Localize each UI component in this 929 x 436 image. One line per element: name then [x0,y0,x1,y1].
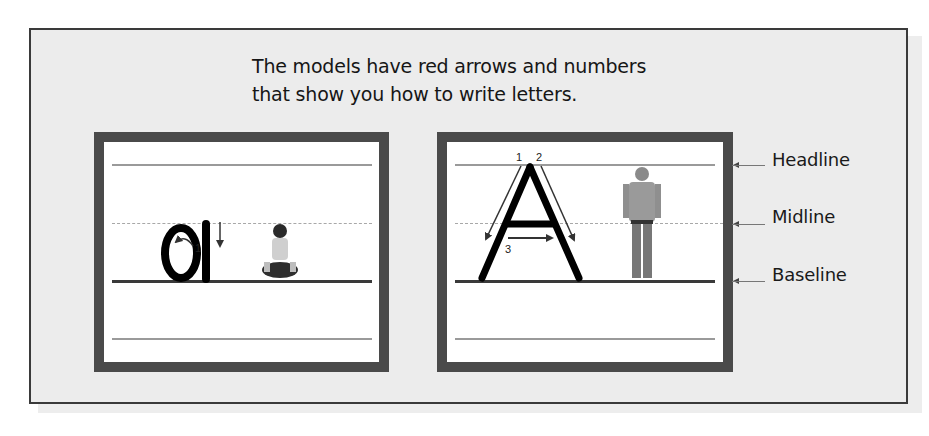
midline-leader [732,224,765,225]
standing-boy-photo [623,167,661,278]
uppercase-a-glyph [482,167,579,278]
midline-label: Midline [772,206,835,227]
headline-label: Headline [772,149,850,170]
stroke-number-1: 1 [516,151,522,163]
baseline-label: Baseline [772,264,847,285]
seated-child-photo [262,224,298,278]
stroke-number-3: 3 [505,243,511,255]
baseline-leader [732,281,765,282]
stroke-number-1: 1 [195,242,201,254]
headline-leader [732,165,765,166]
stroke-number-2: 2 [536,151,542,163]
